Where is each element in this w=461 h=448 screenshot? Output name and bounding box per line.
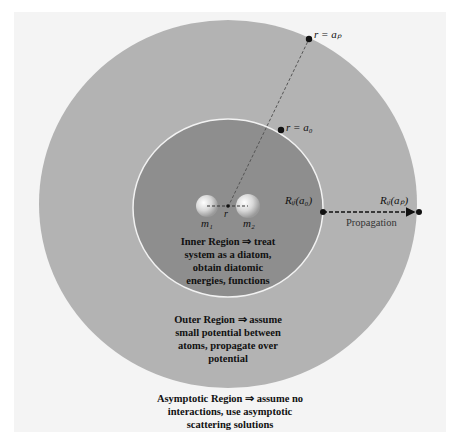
inner-text-line: obtain diatomic [150,261,306,274]
asymptotic-text-line: interactions, use asymptotic [120,405,340,418]
marker-R-a0 [320,209,326,215]
label-m1: m₁ [201,217,213,229]
outer-text-line: atoms, propagate over [140,339,316,352]
label-r-ap: r = aₚ [314,28,342,41]
asymptotic-text-line: Asymptotic Region ⇒ assume no [120,392,340,405]
label-R-ap: Rᵢⱼ(aₚ) [380,194,408,207]
asymptotic-region-text: Asymptotic Region ⇒ assume no interactio… [120,392,340,431]
inner-text-line: Inner Region ⇒ treat [150,235,306,248]
marker-r-a0 [278,127,284,133]
label-propagation: Propagation [346,217,397,228]
outer-region-text: Outer Region ⇒ assume small potential be… [140,313,316,365]
inner-region-text: Inner Region ⇒ treat system as a diatom,… [150,235,306,287]
outer-text-line: small potential between [140,326,316,339]
inner-text-line: energies, functions [150,274,306,287]
inner-text-line: system as a diatom, [150,248,306,261]
outer-text-line: Outer Region ⇒ assume [140,313,316,326]
outer-text-line: potential [140,352,316,365]
label-r-a0: r = a₀ [286,121,313,133]
marker-R-ap [416,209,422,215]
label-R-a0: Rᵢⱼ(a₀) [285,194,312,207]
label-r: r [224,208,228,219]
asymptotic-text-line: scattering solutions [120,418,340,431]
marker-r-ap [306,36,312,42]
label-m2: m₂ [243,217,255,229]
